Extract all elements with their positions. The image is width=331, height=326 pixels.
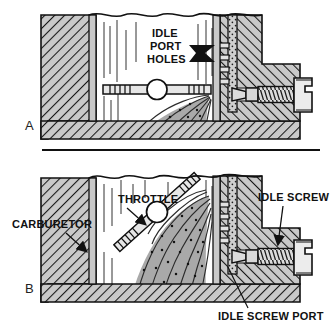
idle-screw-label-text: IDLE SCREW <box>258 191 329 203</box>
bore-liner-left-a <box>89 15 96 121</box>
diagram-canvas: IDLE PORT HOLES A <box>0 0 331 326</box>
panel-b: CARBURETOR THROTTLE IDLE SCREW IDLE SCRE… <box>12 173 329 322</box>
screw-shoulder-b <box>246 250 258 263</box>
screw-head-a <box>294 78 312 112</box>
screw-threads-a <box>258 87 294 103</box>
bore-liner-right-a <box>213 15 220 121</box>
bore-liner-left-b <box>89 178 96 284</box>
mounting-flange-a <box>41 121 300 139</box>
screw-head-b <box>294 240 312 275</box>
carburetor-label-text: CARBURETOR <box>12 218 92 230</box>
idle-port-holes-line-2: PORT <box>150 40 181 52</box>
screw-shoulder-a <box>246 88 258 101</box>
mounting-flange-b <box>41 284 300 302</box>
panel-label-b: B <box>25 281 34 296</box>
carburetor-idle-circuit-figure: IDLE PORT HOLES A <box>0 0 331 326</box>
panel-label-a: A <box>25 118 34 133</box>
idle-screw-port-label-text: IDLE SCREW PORT <box>218 310 324 322</box>
throttle-shaft-a <box>147 80 167 100</box>
screw-threads-b <box>258 249 294 265</box>
idle-port-holes-line-3: HOLES <box>147 53 186 65</box>
bore-liner-right-b <box>213 176 220 284</box>
throttle-label-text: THROTTLE <box>118 193 178 205</box>
idle-port-holes-line-1: IDLE <box>152 27 178 39</box>
